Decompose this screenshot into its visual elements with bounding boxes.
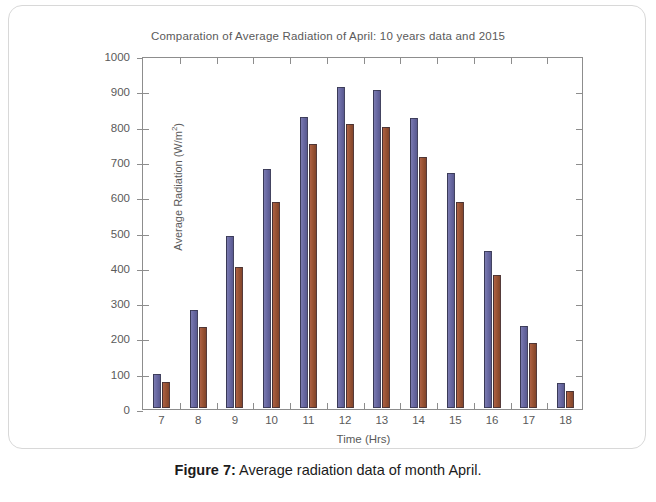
x-axis-tick-label: 17 (522, 414, 535, 426)
chart-figure: Comparation of Average Radiation of Apri… (0, 0, 656, 450)
plot-area: Average Radiation (W/m2) 010020030040050… (142, 57, 583, 410)
bar-10-years-data-hour-15 (447, 173, 455, 408)
bar-2015-hour-10 (272, 202, 280, 409)
bar-2015-hour-7 (162, 382, 170, 408)
y-axis-tick-label: 500 (111, 228, 130, 240)
top-axis-tick (547, 58, 548, 64)
right-axis-tick (576, 270, 582, 271)
bar-10-years-data-hour-14 (410, 118, 418, 408)
x-axis-tick-label: 8 (195, 414, 201, 426)
bar-2015-hour-12 (346, 124, 354, 408)
bar-10-years-data-hour-13 (373, 90, 381, 408)
x-axis-tick (290, 403, 291, 409)
x-axis-tick-label: 9 (232, 414, 238, 426)
y-axis-tick-inner (143, 340, 149, 341)
y-axis-tick-label: 600 (111, 192, 130, 204)
bar-10-years-data-hour-12 (337, 87, 345, 408)
right-axis-tick (576, 164, 582, 165)
y-axis-tick-inner (143, 305, 149, 306)
top-axis-tick (327, 58, 328, 64)
x-axis-tick-label: 15 (449, 414, 462, 426)
top-axis-tick (400, 58, 401, 64)
top-axis-tick (180, 58, 181, 64)
figure-caption-separator: : (231, 462, 236, 478)
top-axis-tick (253, 58, 254, 64)
y-axis-tick-inner (143, 129, 149, 130)
x-axis-tick-label: 18 (559, 414, 572, 426)
bar-2015-hour-17 (529, 343, 537, 408)
bar-2015-hour-18 (566, 391, 574, 408)
bar-10-years-data-hour-18 (557, 383, 565, 408)
bar-2015-hour-14 (419, 157, 427, 408)
x-axis-tick-label: 14 (412, 414, 425, 426)
top-axis-tick (217, 58, 218, 64)
top-axis-tick (511, 58, 512, 64)
right-axis-tick (576, 93, 582, 94)
bar-2015-hour-8 (199, 327, 207, 408)
y-axis-tick-label: 400 (111, 263, 130, 275)
top-axis-tick (290, 58, 291, 64)
bar-10-years-data-hour-7 (153, 374, 161, 408)
y-axis-tick-label: 700 (111, 157, 130, 169)
x-axis-tick-label: 11 (302, 414, 314, 426)
y-axis-tick-inner (143, 376, 149, 377)
right-axis-tick (576, 340, 582, 341)
x-axis-tick (180, 403, 181, 409)
y-axis-tick-label: 900 (111, 86, 130, 98)
y-axis-title-superscript: 2 (170, 127, 179, 131)
right-axis-tick (576, 129, 582, 130)
top-axis-tick (437, 58, 438, 64)
x-axis-tick (474, 403, 475, 409)
y-axis-title-close: ) (172, 123, 184, 127)
bar-10-years-data-hour-17 (520, 326, 528, 408)
y-axis-tick-inner (143, 270, 149, 271)
bar-10-years-data-hour-11 (300, 117, 308, 408)
figure-caption: Figure 7: Average radiation data of mont… (0, 462, 656, 478)
y-axis-title: Average Radiation (W/m2) (170, 77, 184, 297)
x-axis-tick (400, 403, 401, 409)
y-axis-tick: 0 (137, 411, 143, 412)
y-axis-tick-inner (143, 164, 149, 165)
x-axis-tick-label: 13 (375, 414, 388, 426)
bar-2015-hour-9 (235, 267, 243, 408)
bar-2015-hour-13 (382, 127, 390, 408)
chart-title: Comparation of Average Radiation of Apri… (0, 30, 656, 42)
x-axis-tick (364, 403, 365, 409)
y-axis-tick-label: 1000 (104, 51, 130, 63)
top-axis-tick (364, 58, 365, 64)
x-axis-title: Time (Hrs) (143, 433, 584, 445)
x-axis-tick-label: 12 (339, 414, 352, 426)
y-axis-tick-inner (143, 235, 149, 236)
y-axis-tick-label: 300 (111, 298, 130, 310)
x-axis-tick (437, 403, 438, 409)
y-axis-tick-label: 800 (111, 122, 130, 134)
x-axis-tick (217, 403, 218, 409)
figure-caption-label: Figure 7 (175, 462, 231, 478)
top-axis-tick (474, 58, 475, 64)
x-axis-tick (253, 403, 254, 409)
right-axis-tick (576, 235, 582, 236)
right-axis-tick (576, 305, 582, 306)
bar-10-years-data-hour-16 (484, 251, 492, 408)
bar-10-years-data-hour-8 (190, 310, 198, 408)
right-axis-tick (576, 199, 582, 200)
y-axis-tick-inner (143, 199, 149, 200)
x-axis-tick-label: 7 (158, 414, 164, 426)
y-axis-tick-label: 0 (124, 404, 130, 416)
y-axis-tick-label: 200 (111, 333, 130, 345)
y-axis-tick-inner (143, 93, 149, 94)
x-axis-tick-label: 16 (486, 414, 499, 426)
bar-10-years-data-hour-10 (263, 169, 271, 408)
y-axis-tick-label: 100 (111, 369, 130, 381)
x-axis-tick (327, 403, 328, 409)
x-axis-tick-label: 10 (265, 414, 278, 426)
bar-2015-hour-16 (493, 275, 501, 408)
bar-2015-hour-11 (309, 144, 317, 408)
bar-2015-hour-15 (456, 202, 464, 409)
y-axis-tick: 1000 (137, 58, 143, 59)
bar-10-years-data-hour-9 (226, 236, 234, 408)
x-axis-tick (547, 403, 548, 409)
y-axis-title-base: Average Radiation (W/m (172, 131, 184, 251)
x-axis-tick (511, 403, 512, 409)
right-axis-tick (576, 376, 582, 377)
